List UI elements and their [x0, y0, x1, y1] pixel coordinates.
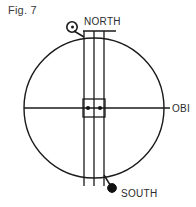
north-marker-leader-line — [74, 31, 84, 37]
obi-label: OBI — [172, 103, 190, 114]
south-label: SOUTH — [121, 188, 158, 199]
south-filled-dot-marker-icon — [108, 184, 117, 193]
north-label: NORTH — [84, 16, 121, 27]
diagram-canvas: NORTH SOUTH OBI — [0, 0, 196, 207]
figure-root: Fig. 7 NORTH SOUTH OBI — [0, 0, 196, 207]
center-right-dot-icon — [98, 106, 102, 110]
center-left-dot-icon — [86, 106, 90, 110]
north-marker-center-dot-icon — [71, 26, 74, 29]
